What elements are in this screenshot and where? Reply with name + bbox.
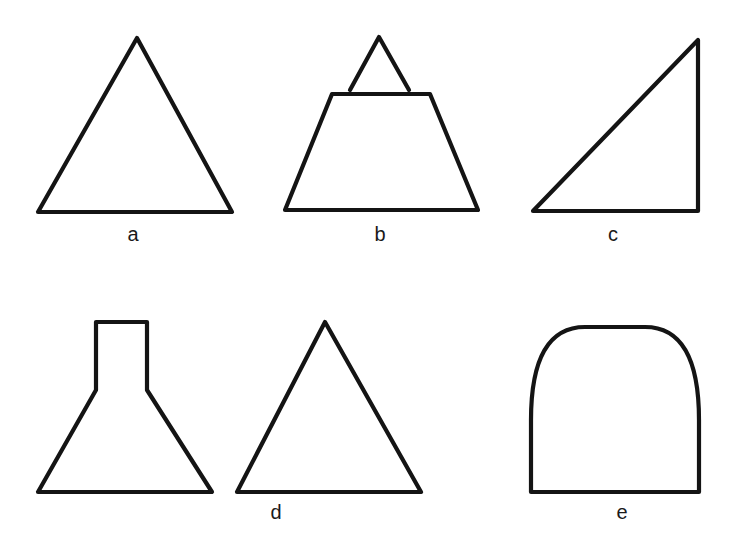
shape-label-c: c [608,224,618,244]
shape-b-detached-apex [350,37,409,90]
shape-b-trapezoid [285,94,478,210]
shape-c-right-triangle [533,40,698,211]
shape-e-dome [531,327,699,492]
shape-drawing-svg [0,0,739,541]
shape-label-b: b [374,224,385,244]
shape-d-flask [38,322,212,492]
shape-label-a: a [127,224,138,244]
shape-label-d: d [270,502,281,522]
shape-label-e: e [616,502,627,522]
figure-canvas: a b c d e [0,0,739,541]
shape-d2-triangle [237,322,421,492]
shape-a-triangle [38,38,232,212]
